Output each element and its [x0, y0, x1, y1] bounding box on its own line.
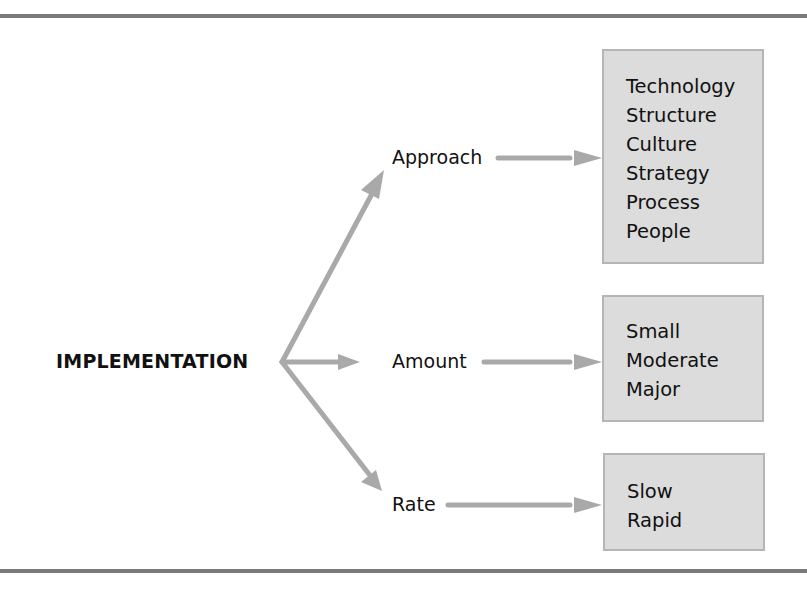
root-node-implementation: IMPLEMENTATION: [56, 350, 248, 372]
option-technology: Technology: [626, 72, 762, 101]
arrowhead-rate-box: [574, 497, 602, 513]
options-box-amount: Small Moderate Major: [602, 295, 764, 422]
option-culture: Culture: [626, 130, 762, 159]
options-box-rate: Slow Rapid: [603, 453, 765, 551]
arrowhead-amount: [338, 354, 360, 370]
arrowhead-approach-box: [574, 150, 602, 166]
option-moderate: Moderate: [626, 346, 762, 375]
option-major: Major: [626, 375, 762, 404]
option-people: People: [626, 217, 762, 246]
arrowhead-rate: [361, 470, 382, 491]
option-small: Small: [626, 317, 762, 346]
options-box-approach: Technology Structure Culture Strategy Pr…: [602, 49, 764, 264]
option-structure: Structure: [626, 101, 762, 130]
branch-label-approach: Approach: [392, 146, 482, 168]
option-rapid: Rapid: [627, 506, 763, 535]
arrowhead-amount-box: [574, 354, 602, 370]
option-slow: Slow: [627, 477, 763, 506]
option-strategy: Strategy: [626, 159, 762, 188]
branch-label-amount: Amount: [392, 350, 467, 372]
option-process: Process: [626, 188, 762, 217]
arrowhead-approach: [361, 170, 384, 199]
branch-label-rate: Rate: [392, 493, 436, 515]
